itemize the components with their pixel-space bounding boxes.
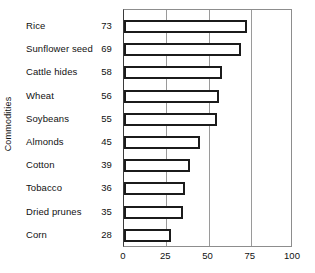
bar xyxy=(124,66,222,79)
x-tick-label: 75 xyxy=(244,250,255,261)
x-axis-tick-labels: 0255075100 xyxy=(123,250,292,266)
bar xyxy=(124,90,219,103)
value-label: 58 xyxy=(101,65,112,78)
value-label: 55 xyxy=(101,112,112,125)
bar xyxy=(124,229,171,242)
x-tick-label: 100 xyxy=(284,250,300,261)
category-label: Dried prunes xyxy=(26,205,82,218)
value-label: 45 xyxy=(101,135,112,148)
bar xyxy=(124,113,217,126)
category-label: Corn xyxy=(26,228,47,241)
value-label: 35 xyxy=(101,205,112,218)
bar-chart-screenshot: Commodities RiceSunflower seedCattle hid… xyxy=(0,0,315,273)
category-label: Rice xyxy=(26,19,45,32)
category-label: Cotton xyxy=(26,158,55,171)
x-tick-label: 25 xyxy=(160,250,171,261)
bar xyxy=(124,43,241,56)
bar xyxy=(124,20,247,33)
value-label: 73 xyxy=(101,19,112,32)
bar xyxy=(124,136,200,149)
x-tick-label: 50 xyxy=(202,250,213,261)
value-label: 69 xyxy=(101,42,112,55)
category-label: Sunflower seed xyxy=(26,42,93,55)
value-label: 36 xyxy=(101,181,112,194)
category-label: Almonds xyxy=(26,135,64,148)
y-axis-title: Commodities xyxy=(0,0,16,247)
bar xyxy=(124,159,190,172)
category-label: Tobacco xyxy=(26,181,62,194)
value-label: 39 xyxy=(101,158,112,171)
y-axis-title-text: Commodities xyxy=(3,96,13,151)
value-label: 56 xyxy=(101,89,112,102)
x-tick-label: 0 xyxy=(120,250,125,261)
value-label: 28 xyxy=(101,228,112,241)
bar xyxy=(124,206,183,219)
plot-area xyxy=(123,9,292,247)
category-label: Wheat xyxy=(26,89,54,102)
category-label: Cattle hides xyxy=(26,65,77,78)
bar xyxy=(124,182,185,195)
value-label-column: 73695856554539363528 xyxy=(86,9,112,247)
category-label: Soybeans xyxy=(26,112,69,125)
gridline-75 xyxy=(251,10,252,246)
